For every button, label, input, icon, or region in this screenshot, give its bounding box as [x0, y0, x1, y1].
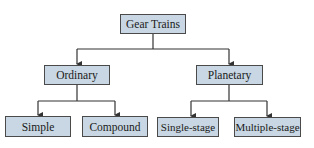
- node-multiple-stage: Multiple-stage: [234, 117, 301, 137]
- node-compound: Compound: [82, 116, 148, 137]
- node-label: Ordinary: [56, 69, 98, 81]
- node-label: Single-stage: [161, 121, 215, 133]
- node-label: Simple: [22, 121, 55, 133]
- node-label: Gear Trains: [126, 18, 180, 30]
- node-label: Multiple-stage: [235, 121, 299, 133]
- node-label: Compound: [89, 121, 140, 133]
- node-gear-trains: Gear Trains: [120, 14, 186, 34]
- node-label: Planetary: [208, 69, 251, 81]
- node-planetary: Planetary: [196, 65, 263, 85]
- node-simple: Simple: [5, 116, 71, 137]
- node-single-stage: Single-stage: [157, 117, 219, 137]
- node-ordinary: Ordinary: [44, 65, 110, 85]
